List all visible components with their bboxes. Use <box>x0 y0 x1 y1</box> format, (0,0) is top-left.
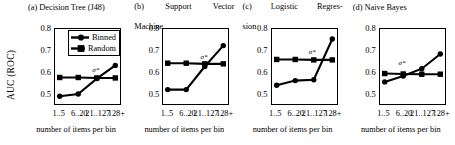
legend-item-binned: Binned <box>71 32 116 43</box>
data-point-circle <box>184 87 189 92</box>
y-tick-label: 0.7 <box>136 45 159 55</box>
sigma-star-annotation: σ* <box>398 59 405 67</box>
data-point-circle <box>76 91 81 96</box>
y-tick-label: 0.6 <box>136 67 159 77</box>
x-tick-label: 1..5 <box>52 109 64 118</box>
data-point-square <box>202 61 207 66</box>
sigma-star-annotation: σ* <box>201 53 208 61</box>
data-point-circle <box>329 36 334 41</box>
data-point-square <box>76 75 81 80</box>
figure-multi-panel-auc: AUC (ROC) (a) Decision Tree (J48) Binned <box>0 0 455 145</box>
data-point-circle <box>273 83 278 88</box>
data-point-square <box>311 57 316 62</box>
plot-area-a: Binned Random 0.50.60.70.81..56..2021..1… <box>22 0 130 145</box>
x-tick-label: 21..127 <box>302 109 327 118</box>
sigma-star-annotation: σ* <box>92 66 99 74</box>
data-point-square <box>113 75 118 80</box>
data-point-circle <box>311 77 316 82</box>
series-line-binned <box>168 46 224 90</box>
x-tick-label: 21..127 <box>410 109 435 118</box>
x-tick-label: 128+ <box>432 109 449 118</box>
data-point-square <box>419 72 424 77</box>
data-point-circle <box>221 43 226 48</box>
x-tick-label: 1..5 <box>377 109 389 118</box>
data-point-circle <box>437 51 442 56</box>
x-tick-label: 21..127 <box>194 109 219 118</box>
x-tick-label: 128+ <box>108 109 125 118</box>
x-axis-label: number of items per bin <box>22 125 130 134</box>
data-point-square <box>400 71 405 76</box>
y-tick-label: 0.6 <box>28 67 51 77</box>
data-point-circle <box>57 94 62 99</box>
y-tick-label: 0.5 <box>245 89 268 99</box>
x-tick-label: 128+ <box>216 109 233 118</box>
series-line-random <box>384 74 440 75</box>
legend-square-icon <box>71 44 85 53</box>
data-point-square <box>94 75 99 80</box>
x-axis-label: number of items per bin <box>347 125 455 134</box>
y-axis-label-container: AUC (ROC) <box>0 0 22 145</box>
y-tick-label: 0.8 <box>245 23 268 33</box>
plot-area-b: 0.50.60.70.81..56..2021..127128+number o… <box>130 0 238 145</box>
y-tick-label: 0.7 <box>245 45 268 55</box>
legend-item-random: Random <box>71 43 116 54</box>
plot-area-c: 0.50.60.70.81..56..2021..127128+number o… <box>239 0 347 145</box>
data-point-circle <box>165 87 170 92</box>
x-tick-label: 1..5 <box>269 109 281 118</box>
legend-circle-icon <box>71 33 89 42</box>
y-tick-label: 0.5 <box>28 89 51 99</box>
data-point-circle <box>419 66 424 71</box>
data-point-square <box>382 71 387 76</box>
y-tick-label: 0.7 <box>28 45 51 55</box>
data-point-circle <box>382 79 387 84</box>
data-point-square <box>184 61 189 66</box>
x-axis-label: number of items per bin <box>239 125 347 134</box>
series-line-binned <box>60 65 116 96</box>
panel-logistic-regression: (c) Logistic Regres- sion 0.50.60.70.81.… <box>239 0 347 145</box>
panel-decision-tree: (a) Decision Tree (J48) Binned <box>22 0 130 145</box>
data-point-square <box>221 61 226 66</box>
data-point-square <box>437 72 442 77</box>
x-tick-label: 128+ <box>324 109 341 118</box>
data-point-square <box>292 57 297 62</box>
data-point-square <box>57 75 62 80</box>
data-point-square <box>273 57 278 62</box>
legend-label-binned: Binned <box>92 33 116 42</box>
plot-area-d: 0.50.60.70.81..56..2021..127128+number o… <box>347 0 455 145</box>
sigma-star-annotation: σ* <box>309 48 316 56</box>
panel-naive-bayes: (d) Naive Bayes 0.50.60.70.81..56..2021.… <box>347 0 455 145</box>
y-tick-label: 0.6 <box>245 67 268 77</box>
y-axis-label: AUC (ROC) <box>6 50 16 100</box>
data-point-circle <box>292 78 297 83</box>
y-tick-label: 0.8 <box>28 23 51 33</box>
y-tick-label: 0.8 <box>353 23 376 33</box>
y-tick-label: 0.6 <box>353 67 376 77</box>
x-tick-label: 21..127 <box>85 109 110 118</box>
data-point-square <box>329 57 334 62</box>
y-tick-label: 0.5 <box>353 89 376 99</box>
x-axis-label: number of items per bin <box>130 125 238 134</box>
series-line-random <box>168 63 224 64</box>
y-tick-label: 0.8 <box>136 23 159 33</box>
legend-label-random: Random <box>88 44 116 53</box>
series-line-binned <box>384 54 440 82</box>
data-point-circle <box>113 63 118 68</box>
y-tick-label: 0.7 <box>353 45 376 55</box>
y-tick-label: 0.5 <box>136 89 159 99</box>
panel-svm: (b) Support Vector Machine 0.50.60.70.81… <box>130 0 238 145</box>
series-line-binned <box>276 39 332 85</box>
x-tick-label: 1..5 <box>161 109 173 118</box>
legend-a: Binned Random <box>68 30 120 56</box>
panel-row: (a) Decision Tree (J48) Binned <box>22 0 455 145</box>
data-point-square <box>165 61 170 66</box>
